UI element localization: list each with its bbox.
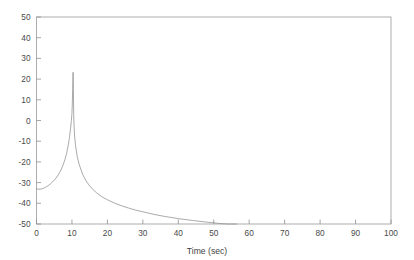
y-tick-label: 0 [26, 116, 31, 126]
x-axis-title-holder: Time (sec) [0, 240, 414, 258]
y-tick-label: -40 [19, 198, 31, 208]
x-tick-label: 50 [209, 228, 219, 238]
y-tick-label: -30 [19, 178, 31, 188]
y-tick-label: 40 [21, 33, 31, 43]
y-tick-label: -20 [19, 157, 31, 167]
x-tick-label: 40 [174, 228, 184, 238]
x-tick-label: 30 [138, 228, 148, 238]
x-tick-label: 60 [245, 228, 255, 238]
x-tick-label: 10 [67, 228, 77, 238]
x-axis-title: Time (sec) [187, 246, 227, 256]
x-tick-label: 20 [103, 228, 113, 238]
plot-canvas: -50-40-30-20-1001020304050 0102030405060… [0, 0, 414, 260]
x-tick-label: 100 [384, 228, 398, 238]
x-tick-label: 80 [315, 228, 325, 238]
y-tick-label: 10 [21, 95, 31, 105]
y-tick-label: 30 [21, 53, 31, 63]
x-tick-label: 0 [34, 228, 39, 238]
x-tick-label: 90 [351, 228, 361, 238]
y-tick-label: -10 [19, 136, 31, 146]
chart-figure: -50-40-30-20-1001020304050 0102030405060… [0, 0, 414, 260]
figure-background [0, 0, 414, 260]
y-tick-label: 20 [21, 74, 31, 84]
x-tick-label: 70 [280, 228, 290, 238]
y-tick-label: 50 [21, 12, 31, 22]
y-tick-label: -50 [19, 219, 31, 229]
